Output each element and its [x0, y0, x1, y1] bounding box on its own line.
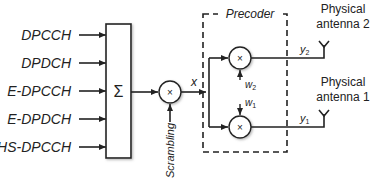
w1-label: w1: [245, 97, 256, 109]
x-signal-label: x: [190, 75, 198, 89]
w2-label: w2: [245, 79, 256, 91]
multiply-symbol-w1: ×: [237, 122, 243, 133]
split-lines: [209, 58, 228, 127]
y2-label: y2: [299, 43, 310, 56]
antenna-icon: [319, 41, 329, 47]
scrambling-multiply-symbol: ×: [167, 87, 173, 98]
antenna-icon: [319, 110, 329, 116]
antenna-1-label-line2: antenna 1: [316, 90, 370, 104]
precoder-title: Precoder: [226, 7, 276, 21]
input-label-dpcch: DPCCH: [21, 27, 72, 43]
antenna-1-label-line1: Physical: [321, 75, 366, 89]
multiply-symbol-w2: ×: [237, 53, 243, 64]
scrambling-label: Scrambling: [164, 122, 176, 178]
input-label-e-dpdch: E-DPDCH: [7, 111, 72, 127]
y1-label: y1: [299, 112, 310, 125]
input-label-hs-dpcch: HS-DPCCH: [0, 139, 72, 155]
input-label-e-dpcch: E-DPCCH: [7, 83, 72, 99]
uplink-precoder-diagram: DPCCH DPDCH E-DPCCH E-DPDCH HS-DPCCH Σ ×…: [0, 0, 375, 185]
sigma-symbol: Σ: [114, 83, 124, 100]
input-label-dpdch: DPDCH: [21, 55, 72, 71]
antenna-2-label-line2: antenna 2: [316, 17, 370, 31]
antenna-2-label-line1: Physical: [321, 2, 366, 16]
input-arrows: [79, 35, 106, 147]
